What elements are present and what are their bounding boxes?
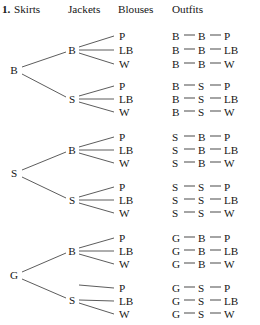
outfit-jacket: B xyxy=(198,31,207,42)
outfit-skirt: G xyxy=(172,283,181,294)
outfit-skirt: S xyxy=(172,132,181,143)
outfit-connector-icon xyxy=(210,98,221,99)
outfit-row: GBW xyxy=(172,259,241,270)
outfit-blouse: W xyxy=(224,309,241,320)
outfit-blouse: P xyxy=(224,233,241,244)
outfit-row: SSW xyxy=(172,208,241,219)
tree-node-blouse: P xyxy=(119,31,125,42)
tree-node-blouse: LB xyxy=(119,145,133,156)
outfit-connector-icon xyxy=(184,199,195,200)
outfit-connector-icon xyxy=(184,162,195,163)
outfit-connector-icon xyxy=(184,35,195,36)
outfit-jacket: B xyxy=(198,158,207,169)
tree-node-jacket: B xyxy=(68,246,75,257)
outfit-jacket: S xyxy=(198,309,207,320)
outfit-connector-icon xyxy=(184,63,195,64)
outfit-connector-icon xyxy=(184,186,195,187)
outfit-connector-icon xyxy=(184,136,195,137)
outfit-skirt: B xyxy=(172,94,181,105)
outfit-connector-icon xyxy=(210,212,221,213)
outfit-skirt: S xyxy=(172,182,181,193)
tree-node-blouse: W xyxy=(119,158,130,169)
outfit-connector-icon xyxy=(210,49,221,50)
outfit-skirt: S xyxy=(172,195,181,206)
outfit-row: SBLB xyxy=(172,145,241,156)
outfit-blouse: LB xyxy=(224,94,241,105)
outfit-row: BSW xyxy=(172,107,241,118)
outfit-row: SSP xyxy=(172,182,241,193)
tree-edge xyxy=(79,285,114,288)
outfit-connector-icon xyxy=(210,199,221,200)
tree-edge xyxy=(22,152,66,170)
tree-edge xyxy=(79,53,114,64)
outfit-connector-icon xyxy=(210,85,221,86)
tree-node-jacket: S xyxy=(69,94,75,105)
outfit-jacket: B xyxy=(198,132,207,143)
tree-edge xyxy=(22,177,66,198)
tree-edge xyxy=(79,137,114,147)
outfit-row: GBP xyxy=(172,233,241,244)
outfit-connector-icon xyxy=(210,186,221,187)
tree-node-blouse: P xyxy=(119,132,125,143)
outfit-skirt: B xyxy=(172,59,181,70)
outfit-row: SBW xyxy=(172,158,241,169)
outfit-row: BBP xyxy=(172,31,241,42)
tree-edge xyxy=(79,187,114,197)
outfit-blouse: W xyxy=(224,208,241,219)
outfit-jacket: B xyxy=(198,246,207,257)
tree-node-jacket: S xyxy=(69,195,75,206)
outfit-blouse: LB xyxy=(224,45,241,56)
outfit-skirt: G xyxy=(172,309,181,320)
tree-node-jacket: B xyxy=(68,45,75,56)
tree-node-skirt: S xyxy=(11,168,17,179)
outfit-jacket: S xyxy=(198,208,207,219)
tree-edge xyxy=(79,238,114,248)
tree-node-blouse: W xyxy=(119,208,130,219)
tree-node-blouse: LB xyxy=(119,296,133,307)
outfit-connector-icon xyxy=(184,85,195,86)
outfit-skirt: G xyxy=(172,233,181,244)
outfit-connector-icon xyxy=(210,111,221,112)
outfit-jacket: S xyxy=(198,195,207,206)
outfit-row: GSW xyxy=(172,309,241,320)
outfit-blouse: P xyxy=(224,182,241,193)
tree-edge xyxy=(22,52,66,67)
outfit-skirt: B xyxy=(172,107,181,118)
outfit-connector-icon xyxy=(210,35,221,36)
outfit-connector-icon xyxy=(210,313,221,314)
outfit-connector-icon xyxy=(184,212,195,213)
outfit-blouse: W xyxy=(224,259,241,270)
outfit-connector-icon xyxy=(210,287,221,288)
tree-node-blouse: W xyxy=(119,59,130,70)
tree-node-blouse: W xyxy=(119,107,130,118)
tree-node-blouse: P xyxy=(119,81,125,92)
outfit-connector-icon xyxy=(184,300,195,301)
outfit-connector-icon xyxy=(210,237,221,238)
tree-edge xyxy=(79,36,114,47)
outfit-row: BSLB xyxy=(172,94,241,105)
outfit-connector-icon xyxy=(184,111,195,112)
outfits-list: BBPBBLBBBWBSPBSLBBSWSBPSBLBSBWSSPSSLBSSW… xyxy=(172,0,260,325)
outfit-blouse: LB xyxy=(224,296,241,307)
tree-node-blouse: LB xyxy=(119,195,133,206)
outfit-connector-icon xyxy=(210,263,221,264)
outfit-connector-icon xyxy=(184,263,195,264)
outfit-jacket: B xyxy=(198,45,207,56)
tree-edge xyxy=(22,74,66,97)
outfit-row: BSP xyxy=(172,81,241,92)
outfit-connector-icon xyxy=(184,250,195,251)
outfit-jacket: B xyxy=(198,233,207,244)
outfit-jacket: S xyxy=(198,94,207,105)
outfit-skirt: B xyxy=(172,81,181,92)
tree-node-blouse: LB xyxy=(119,45,133,56)
outfit-skirt: S xyxy=(172,158,181,169)
outfit-blouse: P xyxy=(224,283,241,294)
outfit-blouse: W xyxy=(224,107,241,118)
outfit-connector-icon xyxy=(210,162,221,163)
outfit-connector-icon xyxy=(184,98,195,99)
outfit-jacket: S xyxy=(198,283,207,294)
outfit-blouse: P xyxy=(224,31,241,42)
outfit-blouse: LB xyxy=(224,246,241,257)
outfit-row: BBLB xyxy=(172,45,241,56)
outfit-skirt: S xyxy=(172,208,181,219)
